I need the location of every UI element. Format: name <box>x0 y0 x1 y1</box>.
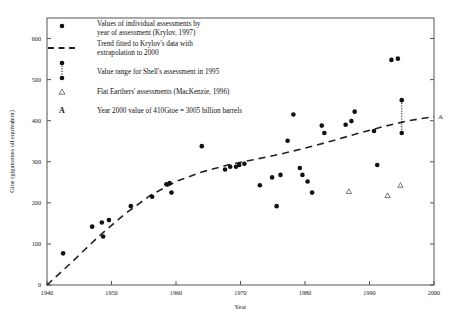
chart-figure: 0100200300400500600194019501960197019801… <box>0 0 457 322</box>
data-point-assessment <box>310 190 315 195</box>
data-point-assessment <box>242 162 247 167</box>
data-point-assessment <box>349 119 354 124</box>
y-axis-title: Gtoe (gigatonnes oil equivalent) <box>8 110 16 193</box>
shell-range-high-dot <box>399 98 404 103</box>
data-point-assessment <box>343 123 348 128</box>
data-point-assessment <box>237 163 242 168</box>
data-point-assessment <box>167 181 172 186</box>
legend-label-trend-line2: extrapolation to 2000 <box>97 49 159 57</box>
data-point-assessment <box>274 204 279 209</box>
data-point-assessment <box>319 123 324 128</box>
legend-marker-shell-high-dot <box>60 61 65 66</box>
data-point-assessment <box>169 190 174 195</box>
legend-label-assessments-line1: Values of individual assessments by <box>97 20 201 28</box>
shell-range-low-dot <box>399 131 404 136</box>
legend-label-trend-line1: Trend fitted to Krylov's data with <box>97 40 193 48</box>
data-point-assessment <box>352 109 357 114</box>
data-point-assessment <box>322 131 327 136</box>
legend-marker-assessment-dot <box>60 24 65 29</box>
data-point-assessment <box>389 58 394 63</box>
data-point-assessment <box>228 164 233 169</box>
data-point-assessment <box>200 144 205 149</box>
legend-label-flat-earthers: Flat Earthers' assessments (MacKenzie, 1… <box>97 88 230 96</box>
y-tick-label: 100 <box>32 240 41 247</box>
data-point-assessment <box>129 204 134 209</box>
x-tick-label: 1950 <box>105 289 117 296</box>
data-point-assessment <box>258 183 263 188</box>
data-point-assessment <box>285 139 290 144</box>
data-point-assessment <box>372 129 377 134</box>
x-axis-title: Year <box>235 303 248 310</box>
assessment-scatter-chart: 0100200300400500600194019501960197019801… <box>0 0 457 322</box>
data-point-assessment <box>223 167 228 172</box>
y-tick-label: 600 <box>32 35 41 42</box>
data-point-assessment <box>278 173 283 178</box>
x-tick-label: 2000 <box>428 289 440 296</box>
data-point-assessment <box>107 218 112 223</box>
data-point-assessment <box>375 163 380 168</box>
y-tick-label: 400 <box>32 117 41 124</box>
y-tick-label: 0 <box>38 281 41 288</box>
plot-frame <box>47 18 434 285</box>
x-tick-label: 1970 <box>234 289 246 296</box>
data-point-assessment <box>300 173 305 178</box>
y-tick-label: 500 <box>32 76 41 83</box>
data-point-assessment <box>298 166 303 171</box>
x-tick-label: 1990 <box>363 289 375 296</box>
y-tick-label: 300 <box>32 158 41 165</box>
data-point-assessment <box>101 234 106 239</box>
legend-label-shell-range: Value range for Shell's assessment in 19… <box>97 68 220 76</box>
legend-label-assessments-line2: year of assessment (Krylov, 1997) <box>97 29 196 37</box>
data-point-assessment <box>100 220 105 225</box>
data-point-assessment <box>396 56 401 61</box>
data-point-assessment <box>270 175 275 180</box>
legend-marker-shell-low-dot <box>60 76 65 81</box>
x-tick-label: 1960 <box>170 289 182 296</box>
legend-marker-letter-a: A <box>59 106 65 115</box>
data-point-assessment <box>90 224 95 229</box>
legend-label-year2000-value: Year 2000 value of 410Gtoe = 3005 billio… <box>97 107 242 115</box>
data-point-assessment <box>305 179 310 184</box>
x-tick-label: 1940 <box>41 289 53 296</box>
x-tick-label: 1980 <box>299 289 311 296</box>
y-tick-label: 200 <box>32 199 41 206</box>
year2000-value-marker: A <box>438 113 443 121</box>
data-point-assessment <box>150 194 155 199</box>
data-point-assessment <box>61 251 66 256</box>
data-point-assessment <box>291 112 296 117</box>
